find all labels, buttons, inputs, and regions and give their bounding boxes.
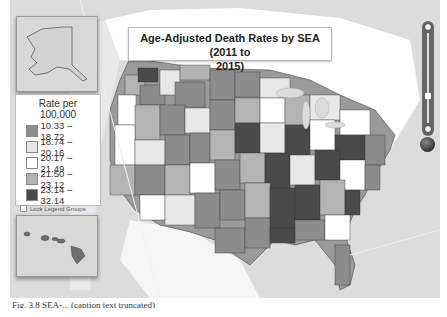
zoom-in-button[interactable] bbox=[424, 23, 432, 31]
map-application: Age-Adjusted Death Rates by SEA (2011 to… bbox=[0, 0, 447, 317]
legend-title: Rate per 100,000 bbox=[20, 98, 96, 120]
legend-panel: Rate per 100,000 10.33 – 18.72 18.74 – 2… bbox=[15, 94, 101, 206]
globe-icon[interactable] bbox=[420, 137, 435, 152]
map-title-line1: Age-Adjusted Death Rates by SEA (2011 to bbox=[129, 31, 331, 59]
legend-swatch[interactable] bbox=[26, 125, 38, 137]
lock-legend-label: Lock Legend Groups bbox=[30, 206, 86, 212]
legend-swatch[interactable] bbox=[26, 157, 38, 169]
hawaii-map bbox=[17, 216, 97, 276]
figure-caption: Fig. 3.8 SEA-... (caption text truncated… bbox=[12, 300, 155, 317]
legend-swatch[interactable] bbox=[26, 189, 38, 201]
legend-swatch[interactable] bbox=[26, 173, 38, 185]
zoom-thumb[interactable] bbox=[425, 93, 431, 99]
zoom-track[interactable] bbox=[427, 33, 429, 123]
map-title-line2: 2015) bbox=[129, 59, 331, 73]
lock-legend-checkbox[interactable] bbox=[20, 205, 27, 212]
alaska-map bbox=[17, 17, 97, 91]
hawaii-inset[interactable] bbox=[16, 215, 98, 277]
legend-label: 23.14 – 32.14 bbox=[41, 184, 96, 206]
lock-legend-groups[interactable]: Lock Legend Groups bbox=[20, 205, 96, 212]
legend-swatch[interactable] bbox=[26, 141, 38, 153]
alaska-inset[interactable] bbox=[16, 16, 98, 92]
map-title: Age-Adjusted Death Rates by SEA (2011 to… bbox=[128, 27, 332, 61]
zoom-out-button[interactable] bbox=[424, 125, 432, 133]
zoom-slider[interactable] bbox=[422, 21, 434, 136]
legend-item[interactable]: 23.14 – 32.14 bbox=[20, 187, 96, 203]
